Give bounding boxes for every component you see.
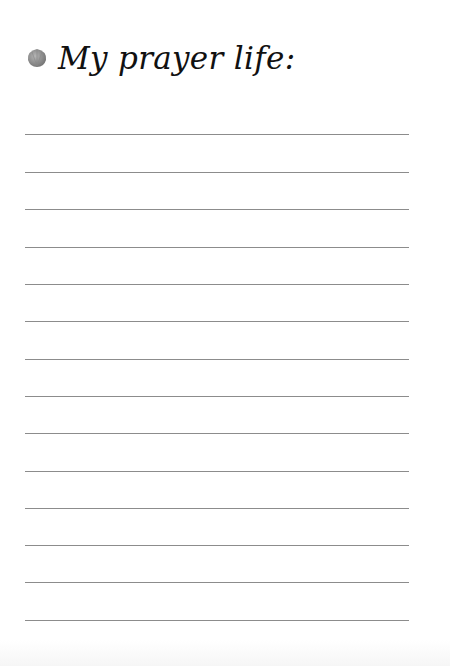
writing-line[interactable] bbox=[25, 134, 409, 135]
writing-line[interactable] bbox=[25, 321, 409, 322]
writing-line[interactable] bbox=[25, 209, 409, 210]
writing-line[interactable] bbox=[25, 172, 409, 173]
writing-line[interactable] bbox=[25, 396, 409, 397]
writing-line[interactable] bbox=[25, 508, 409, 509]
page-edge bbox=[0, 640, 450, 666]
writing-line[interactable] bbox=[25, 620, 409, 621]
writing-line[interactable] bbox=[25, 359, 409, 360]
page-title: My prayer life: bbox=[58, 40, 295, 76]
writing-line[interactable] bbox=[25, 284, 409, 285]
shell-icon bbox=[26, 48, 48, 68]
writing-line[interactable] bbox=[25, 582, 409, 583]
page-header: My prayer life: bbox=[26, 38, 295, 78]
writing-line[interactable] bbox=[25, 433, 409, 434]
writing-line[interactable] bbox=[25, 247, 409, 248]
writing-line[interactable] bbox=[25, 545, 409, 546]
writing-line[interactable] bbox=[25, 471, 409, 472]
